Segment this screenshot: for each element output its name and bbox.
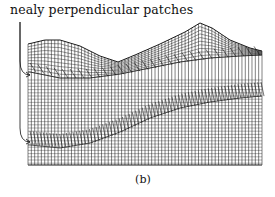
annotation-label: nealy perpendicular patches	[10, 2, 193, 17]
mesh-figure	[0, 0, 275, 197]
arrow-icon	[20, 22, 30, 75]
mesh-grid	[28, 23, 264, 165]
figure-caption: (b)	[135, 173, 151, 186]
arrow-icon	[20, 22, 30, 142]
